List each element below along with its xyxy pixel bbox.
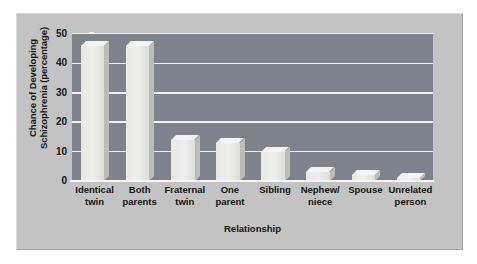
x-axis-title: Relationship (72, 223, 433, 234)
bar (216, 143, 239, 181)
y-tick-label: 30 (43, 86, 67, 97)
y-axis-tick-labels: 01020304050 (39, 14, 67, 251)
y-tick-label: 50 (43, 28, 67, 39)
bar (81, 46, 104, 181)
y-tick-label: 40 (43, 57, 67, 68)
bar-side (285, 147, 290, 181)
bar (171, 140, 194, 181)
bar-side (240, 138, 245, 181)
chart-figure: Chance of Developing Schizophrenia (perc… (0, 0, 477, 264)
bar (126, 46, 149, 181)
y-tick-label: 10 (43, 145, 67, 156)
bar-front (81, 46, 104, 181)
bar-side (104, 41, 109, 181)
bar-front (171, 140, 194, 181)
x-tick-label: Unrelated person (378, 184, 443, 207)
bar-side (195, 135, 200, 181)
bar-side (149, 41, 154, 181)
plot-area (72, 33, 433, 181)
x-axis-tick-labels: Identical twinBoth parentsFraternal twin… (72, 184, 433, 220)
chart-panel: Chance of Developing Schizophrenia (perc… (16, 13, 463, 250)
x-axis-baseline (70, 180, 434, 182)
bar-front (261, 152, 284, 181)
bar (261, 152, 284, 181)
bar-front (216, 143, 239, 181)
bar-front (126, 46, 149, 181)
y-tick-label: 20 (43, 116, 67, 127)
